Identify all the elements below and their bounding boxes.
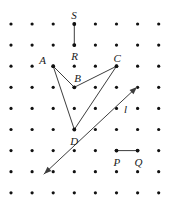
grid-dot (157, 44, 160, 47)
grid-dot (52, 44, 55, 47)
grid-dot (30, 149, 33, 152)
grid-dot (9, 170, 12, 173)
grid-dot (94, 107, 97, 110)
grid-dot (115, 22, 118, 25)
grid-dot (30, 170, 33, 173)
grid-dot (157, 191, 160, 194)
grid-dot (52, 107, 55, 110)
grid-dot (136, 22, 139, 25)
vertex-dot-d (72, 128, 76, 132)
segment-AD (53, 66, 74, 129)
grid-dot (52, 22, 55, 25)
diagram-canvas (0, 0, 178, 204)
grid-dot (9, 65, 12, 68)
grid-dot (30, 65, 33, 68)
grid-dot (52, 128, 55, 131)
grid-dot (9, 191, 12, 194)
grid-dot (52, 170, 55, 173)
grid-dot (9, 107, 12, 110)
point-label-r: R (71, 51, 78, 62)
vertex-dot-q (136, 149, 140, 153)
vertex-dot-s (72, 22, 76, 26)
grid-dot (94, 22, 97, 25)
grid-dot (73, 65, 76, 68)
grid-dot (136, 44, 139, 47)
grid-dot (9, 149, 12, 152)
dot-grid (9, 22, 178, 194)
point-label-q: Q (135, 157, 143, 168)
vertex-dot-b (72, 85, 76, 89)
vertex-dot-r (72, 43, 76, 47)
grid-dot (73, 107, 76, 110)
grid-dot (157, 107, 160, 110)
grid-dot (157, 170, 160, 173)
grid-dot (94, 191, 97, 194)
point-label-b: B (74, 73, 81, 84)
grid-dot (115, 191, 118, 194)
grid-dot (94, 170, 97, 173)
grid-dot (94, 86, 97, 89)
grid-dot (73, 191, 76, 194)
grid-dot (157, 128, 160, 131)
grid-dot (157, 149, 160, 152)
grid-dot (136, 107, 139, 110)
grid-dot (94, 65, 97, 68)
grid-dot (9, 44, 12, 47)
grid-dot (52, 86, 55, 89)
vertex-dot-a (51, 64, 55, 68)
grid-dot (157, 22, 160, 25)
grid-dot (30, 86, 33, 89)
grid-dot (30, 128, 33, 131)
grid-dot (94, 128, 97, 131)
grid-dot (157, 86, 160, 89)
grid-dot (52, 191, 55, 194)
grid-dot (9, 128, 12, 131)
grid-dot (115, 44, 118, 47)
vertex-dot-p (115, 149, 119, 153)
grid-dot (115, 128, 118, 131)
point-label-d: D (70, 136, 78, 147)
line-l (44, 87, 137, 174)
point-label-p: P (114, 157, 121, 168)
point-label-c: C (114, 53, 121, 64)
grid-dot (136, 170, 139, 173)
geometry-diagram: SRABCDPQl (0, 0, 178, 204)
grid-dot (136, 65, 139, 68)
grid-dot (9, 22, 12, 25)
grid-dot (52, 149, 55, 152)
vertex-dot-c (115, 64, 119, 68)
grid-dot (157, 65, 160, 68)
grid-dot (115, 86, 118, 89)
grid-dot (30, 107, 33, 110)
grid-dot (136, 128, 139, 131)
grid-dot (94, 149, 97, 152)
grid-dot (9, 86, 12, 89)
grid-dot (30, 22, 33, 25)
point-label-s: S (71, 10, 77, 21)
line-label-l: l (124, 104, 127, 115)
grid-dot (30, 44, 33, 47)
grid-dot (115, 170, 118, 173)
point-label-a: A (39, 55, 46, 66)
grid-dot (73, 170, 76, 173)
grid-dot (73, 149, 76, 152)
grid-dot (94, 44, 97, 47)
grid-dot (136, 191, 139, 194)
grid-dot (30, 191, 33, 194)
